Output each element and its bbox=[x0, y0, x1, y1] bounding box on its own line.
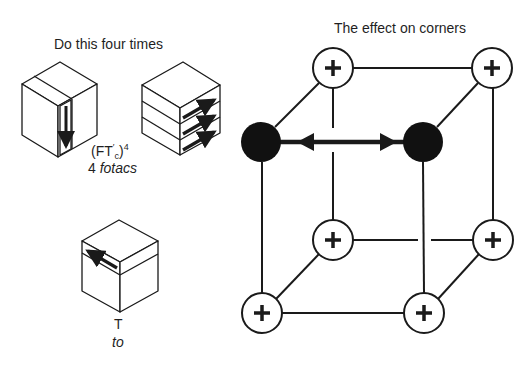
corner-top-front-left-swapped bbox=[241, 122, 281, 162]
diagram-canvas bbox=[0, 0, 532, 370]
corner-cube-wireframe bbox=[262, 68, 493, 313]
corner-top-back-right bbox=[472, 48, 512, 88]
cube-front-slice-icon bbox=[22, 62, 97, 157]
corner-bottom-front-left bbox=[242, 293, 282, 333]
swap-arrow-icon bbox=[280, 133, 405, 151]
cube-top-layer-icon bbox=[82, 220, 158, 312]
corner-bottom-front-right bbox=[404, 293, 444, 333]
corner-top-back-left bbox=[313, 48, 353, 88]
corner-top-front-right-swapped bbox=[403, 122, 443, 162]
cube-layers-icon bbox=[142, 62, 220, 155]
corner-bottom-back-right bbox=[473, 220, 513, 260]
corner-bottom-back-left bbox=[313, 220, 353, 260]
